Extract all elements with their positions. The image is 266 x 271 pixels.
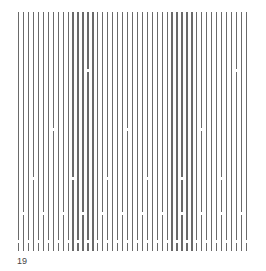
line-gap <box>82 212 85 215</box>
vertical-line <box>206 12 207 251</box>
line-gap <box>200 212 203 215</box>
vertical-line <box>191 12 192 251</box>
vertical-line <box>18 12 19 251</box>
vertical-line <box>137 12 138 251</box>
line-gap <box>240 212 243 215</box>
vertical-line <box>48 12 49 251</box>
figure-label: 19 <box>17 256 27 266</box>
line-gap <box>235 69 238 72</box>
line-gap <box>136 240 139 243</box>
line-gap <box>186 240 189 243</box>
vertical-line <box>201 12 202 251</box>
vertical-line <box>171 12 172 251</box>
vertical-line <box>241 12 242 251</box>
line-gap <box>72 177 75 180</box>
vertical-line <box>33 12 34 251</box>
vertical-line <box>117 12 118 251</box>
line-gap <box>235 240 238 243</box>
line-gap <box>141 212 144 215</box>
line-gap <box>146 240 149 243</box>
vertical-line <box>236 12 237 251</box>
vertical-line <box>181 12 182 251</box>
vertical-line <box>53 12 54 251</box>
line-gap <box>32 177 35 180</box>
vertical-line <box>72 12 73 251</box>
vertical-line <box>58 12 59 251</box>
vertical-line <box>97 12 98 251</box>
vertical-line <box>221 12 222 251</box>
line-gap <box>37 240 40 243</box>
line-pattern-figure <box>0 0 266 271</box>
line-gap <box>205 240 208 243</box>
vertical-line <box>132 12 133 251</box>
line-gap <box>57 240 60 243</box>
vertical-line <box>147 12 148 251</box>
vertical-line <box>107 12 108 251</box>
vertical-line <box>28 12 29 251</box>
vertical-line <box>211 12 212 251</box>
vertical-line <box>196 12 197 251</box>
line-gap <box>200 128 203 131</box>
line-gap <box>195 240 198 243</box>
vertical-line <box>226 12 227 251</box>
line-gap <box>87 69 90 72</box>
vertical-line <box>43 12 44 251</box>
vertical-line <box>82 12 83 251</box>
line-gap <box>27 240 30 243</box>
vertical-line <box>127 12 128 251</box>
vertical-line <box>167 12 168 251</box>
vertical-line <box>38 12 39 251</box>
vertical-line <box>23 12 24 251</box>
line-gap <box>245 240 248 243</box>
line-gap <box>156 240 159 243</box>
line-gap <box>101 212 104 215</box>
line-gap <box>161 212 164 215</box>
line-gap <box>106 240 109 243</box>
line-gap <box>47 240 50 243</box>
vertical-line <box>231 12 232 251</box>
line-gap <box>121 212 124 215</box>
line-gap <box>176 240 179 243</box>
line-gap <box>181 177 184 180</box>
line-gap <box>106 177 109 180</box>
line-gap <box>126 128 129 131</box>
vertical-line <box>142 12 143 251</box>
line-gap <box>166 240 169 243</box>
vertical-line <box>246 12 247 251</box>
vertical-line <box>186 12 187 251</box>
line-gap <box>225 240 228 243</box>
line-gap <box>146 177 149 180</box>
vertical-line <box>68 12 69 251</box>
vertical-line <box>152 12 153 251</box>
vertical-line <box>87 12 88 251</box>
line-gap <box>181 212 184 215</box>
line-gap <box>116 240 119 243</box>
vertical-line <box>122 12 123 251</box>
line-gap <box>96 240 99 243</box>
line-gap <box>87 240 90 243</box>
vertical-line <box>112 12 113 251</box>
vertical-line <box>77 12 78 251</box>
vertical-line <box>157 12 158 251</box>
line-gap <box>220 177 223 180</box>
vertical-line <box>162 12 163 251</box>
line-gap <box>22 212 25 215</box>
vertical-line <box>63 12 64 251</box>
vertical-line <box>92 12 93 251</box>
line-gap <box>17 240 20 243</box>
line-gap <box>52 128 55 131</box>
line-gap <box>126 240 129 243</box>
line-gap <box>215 240 218 243</box>
line-gap <box>220 212 223 215</box>
vertical-line <box>176 12 177 251</box>
vertical-line <box>216 12 217 251</box>
line-gap <box>42 212 45 215</box>
line-gap <box>67 240 70 243</box>
vertical-line <box>102 12 103 251</box>
line-gap <box>62 212 65 215</box>
line-gap <box>77 240 80 243</box>
